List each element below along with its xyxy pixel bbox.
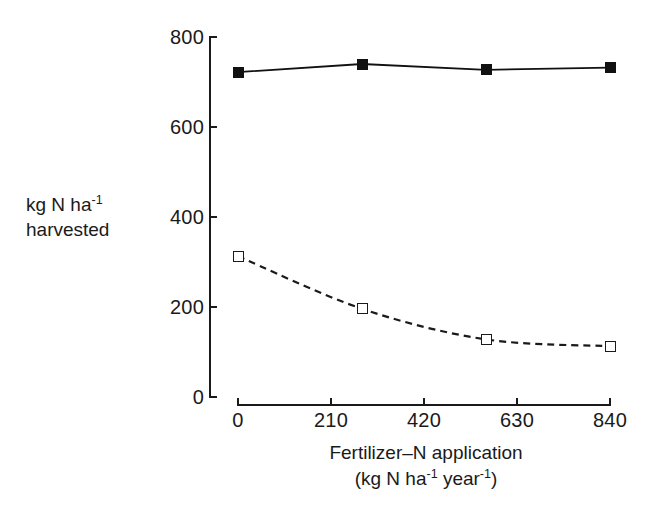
marker-filled-square-series-0 <box>233 67 244 78</box>
marker-open-square-series-1 <box>357 303 368 314</box>
chart-figure: 0200400600800 0210420630840 kg N ha-1 ha… <box>0 0 652 513</box>
x-axis-superscript-1: -1 <box>426 467 437 481</box>
plot-area: 0200400600800 0210420630840 <box>0 0 652 513</box>
marker-filled-square-series-1 <box>357 59 368 70</box>
x-axis-unit-prefix: (kg N ha <box>355 468 427 489</box>
x-axis-title-line2: (kg N ha-1 year-1) <box>355 468 498 489</box>
marker-open-square-series-2 <box>481 334 492 345</box>
y-axis-title: kg N ha-1 harvested <box>26 192 186 242</box>
marker-open-square-series-0 <box>233 251 244 262</box>
line-filled-square-series <box>238 64 610 72</box>
y-axis-title-line2: harvested <box>26 219 109 240</box>
marker-filled-square-series-3 <box>605 62 616 73</box>
line-open-square-series <box>238 256 610 346</box>
y-axis-title-text: kg N ha <box>26 194 91 215</box>
x-axis-title: Fertilizer–N application (kg N ha-1 year… <box>226 440 626 492</box>
y-axis-title-superscript: -1 <box>91 193 102 207</box>
y-axis-title-line1: kg N ha-1 <box>26 194 103 215</box>
x-axis-unit-suffix: ) <box>491 468 497 489</box>
x-axis-unit-mid: year <box>438 468 480 489</box>
marker-open-square-series-3 <box>605 341 616 352</box>
x-axis-title-line1: Fertilizer–N application <box>329 442 522 463</box>
series-lines <box>0 0 652 513</box>
x-axis-superscript-2: -1 <box>480 467 491 481</box>
marker-filled-square-series-2 <box>481 64 492 75</box>
